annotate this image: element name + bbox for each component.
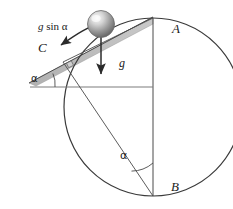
- label-angle-incline: α: [31, 74, 38, 84]
- angle-arc-at-b: [132, 163, 154, 171]
- physics-figure: [0, 0, 233, 209]
- diagram-canvas: A B C g g sin α α α: [0, 0, 233, 209]
- label-point-a: A: [172, 22, 180, 35]
- label-gravity-component: g sin α: [38, 21, 68, 32]
- label-gravity: g: [119, 57, 125, 69]
- circle-outline: [64, 18, 233, 196]
- label-gravity-component-text: sin α: [44, 20, 68, 32]
- label-point-b: B: [171, 180, 179, 193]
- ball: [88, 11, 115, 38]
- chord-cb: [63, 62, 153, 196]
- label-point-c: C: [38, 41, 47, 54]
- label-angle-at-b: α: [120, 150, 127, 161]
